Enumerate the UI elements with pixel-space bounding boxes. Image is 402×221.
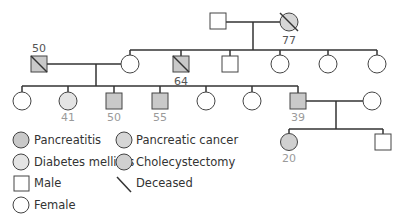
g3-age-39: 39 bbox=[291, 111, 305, 124]
g4-female-cholecystectomy bbox=[281, 134, 298, 151]
legend-cholecystectomy-icon bbox=[116, 154, 132, 170]
g3-age-41: 41 bbox=[61, 111, 75, 124]
legend-deceased: Deceased bbox=[136, 176, 193, 190]
g3-age-50: 50 bbox=[107, 111, 121, 124]
g1-male bbox=[210, 13, 226, 29]
g3-male-pancreatitis-1 bbox=[106, 93, 122, 109]
g3-female-1 bbox=[13, 92, 31, 110]
g2-spouse-age: 50 bbox=[32, 42, 46, 55]
g2-female-2 bbox=[271, 55, 289, 73]
g2-male-deceased-spouse bbox=[31, 56, 47, 72]
legend-pancreatic-cancer: Pancreatic cancer bbox=[136, 133, 238, 147]
legend-deceased-icon bbox=[117, 177, 131, 192]
legend-pancreatic-cancer-icon bbox=[116, 132, 132, 148]
g2-female-1 bbox=[121, 55, 139, 73]
legend-female: Female bbox=[34, 198, 76, 212]
g3-male-pancreatitis-2 bbox=[152, 93, 168, 109]
pedigree-chart: 77 50 64 41 50 55 39 20 bbox=[0, 0, 402, 221]
g3-male-pancreatitis-3 bbox=[290, 93, 306, 109]
g2-female-4 bbox=[368, 55, 386, 73]
g3-female-diabetes bbox=[59, 92, 77, 110]
g2-female-3 bbox=[319, 55, 337, 73]
legend-pancreatitis: Pancreatitis bbox=[34, 133, 101, 147]
legend-pancreatitis-icon bbox=[13, 132, 29, 148]
g4-male bbox=[375, 134, 391, 150]
g3-female-3 bbox=[243, 92, 261, 110]
g3-spouse-female bbox=[363, 92, 381, 110]
legend-diabetes-icon bbox=[13, 154, 29, 170]
g4-age-20: 20 bbox=[282, 152, 296, 165]
g1-female-age: 77 bbox=[282, 34, 296, 47]
g2-male-deceased-64 bbox=[173, 56, 189, 72]
legend-male: Male bbox=[34, 176, 61, 190]
g2-male-2 bbox=[222, 56, 238, 72]
legend-female-icon bbox=[13, 197, 29, 213]
legend: Pancreatitis Pancreatic cancer Diabetes … bbox=[13, 132, 238, 213]
g3-female-2 bbox=[197, 92, 215, 110]
g3-age-55: 55 bbox=[153, 111, 167, 124]
legend-cholecystectomy: Cholecystectomy bbox=[136, 155, 235, 169]
legend-male-icon bbox=[14, 176, 29, 191]
g1-female-deceased bbox=[280, 13, 298, 31]
